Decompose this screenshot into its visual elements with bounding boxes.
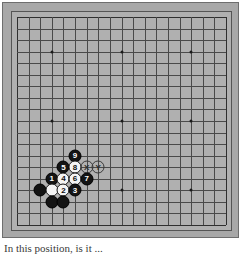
stone-black[interactable] [57, 195, 70, 208]
go-diagram-root: 958XY146723 In this position, is it ... [0, 0, 247, 256]
stone-black-3[interactable]: 3 [69, 184, 82, 197]
stones-layer[interactable]: 958XY146723 [12, 12, 231, 230]
board-frame: 958XY146723 [2, 2, 239, 238]
go-board[interactable]: 958XY146723 [11, 11, 232, 231]
move-marker-Y[interactable]: Y [92, 161, 105, 174]
stone-black-7[interactable]: 7 [80, 172, 93, 185]
diagram-caption: In this position, is it ... [4, 242, 244, 256]
